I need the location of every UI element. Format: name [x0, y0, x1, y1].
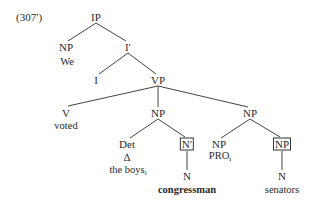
- node-np-secondary: NP: [243, 107, 257, 119]
- branch-np-det: [130, 119, 158, 138]
- branch-ibar-vp: [128, 53, 156, 74]
- syntax-tree: (307′) IP NP We I′ I VP V voted NP NP De…: [0, 0, 314, 204]
- word-the-boys-text: the boys: [109, 164, 144, 175]
- node-det: Det: [119, 138, 135, 150]
- word-congressman: congressman: [158, 184, 216, 196]
- branch-vp-v: [68, 86, 158, 106]
- node-n-congressman: N: [183, 170, 191, 182]
- word-voted: voted: [54, 120, 77, 132]
- index-i: i: [229, 155, 231, 163]
- node-vp: VP: [151, 74, 165, 86]
- node-n-senators: N: [278, 170, 286, 182]
- branch-vp-np2: [158, 86, 248, 107]
- branch-ibar-i: [99, 53, 128, 74]
- branch-np2-npboxed: [250, 119, 280, 137]
- node-np-pro: NP: [212, 138, 226, 150]
- triangle-icon: Δ: [123, 151, 130, 163]
- branch-ip-np: [68, 23, 96, 41]
- node-i: I: [94, 74, 98, 86]
- node-i-bar: I′: [125, 41, 131, 53]
- node-v: V: [62, 107, 70, 119]
- branch-ip-ibar: [96, 23, 126, 41]
- node-np-subject: NP: [59, 41, 73, 53]
- index-i: i: [145, 169, 147, 177]
- node-ip: IP: [91, 11, 101, 23]
- branch-np-nbar: [158, 119, 185, 137]
- node-n-bar-boxed: N′: [180, 138, 194, 151]
- example-number: (307′): [16, 11, 42, 23]
- word-the-boys: the boysi: [109, 164, 146, 179]
- word-pro: PROi: [209, 150, 231, 165]
- word-senators: senators: [265, 184, 299, 196]
- tree-branches: [0, 0, 314, 204]
- branch-np2-nppro: [221, 119, 250, 138]
- node-np-object: NP: [151, 107, 165, 119]
- word-we: We: [60, 56, 74, 68]
- word-pro-text: PRO: [209, 150, 229, 161]
- node-np-boxed: NP: [273, 138, 291, 151]
